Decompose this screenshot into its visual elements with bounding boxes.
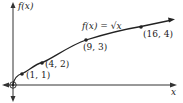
y-axis-down-arrow-icon — [11, 96, 16, 102]
y-axis-up-arrow-icon — [11, 2, 16, 8]
point-label-1-1: (1, 1) — [26, 71, 50, 80]
x-axis-label: x — [171, 88, 176, 97]
curve-arrow-icon — [168, 18, 175, 23]
point-label-16-4: (16, 4) — [143, 30, 173, 39]
function-label: f(x) = √x — [82, 22, 122, 31]
point-label-9-3: (9, 3) — [83, 43, 107, 52]
point-1-1 — [20, 72, 24, 76]
point-4-2 — [40, 61, 44, 65]
y-axis-label: f(x) — [18, 2, 33, 11]
x-axis-left-arrow-icon — [2, 83, 9, 88]
point-label-4-2: (4, 2) — [45, 60, 69, 69]
